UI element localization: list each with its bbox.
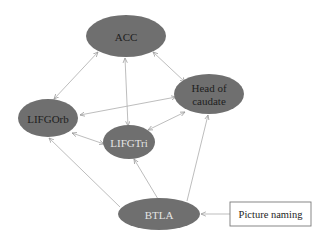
head-of-caudate-label-line2: caudate <box>192 95 226 107</box>
head-of-caudate-ellipse <box>174 74 244 114</box>
edge-acc-lifgtri <box>125 58 128 126</box>
lifgtri-label: LIFGTri <box>110 137 148 149</box>
node-lifgtri: LIFGTri <box>103 125 155 159</box>
edge-acc-lifgorb <box>54 52 98 99</box>
lifgorb-label: LIFGOrb <box>27 113 69 125</box>
acc-label: ACC <box>115 31 138 43</box>
edge-btla-lifgtri <box>134 159 158 199</box>
brain-network-diagram: ACC Head of caudate LIFGOrb LIFGTri BTLA… <box>0 0 327 242</box>
edge-acc-head-of-caudate <box>153 52 185 82</box>
edge-btla-head-of-caudate <box>187 115 208 201</box>
node-lifgorb: LIFGOrb <box>18 99 78 137</box>
node-picture-naming: Picture naming <box>230 202 311 226</box>
edge-head-of-caudate-lifgtri <box>148 112 185 130</box>
edge-lifgorb-head-of-caudate <box>80 97 176 115</box>
btla-label: BTLA <box>145 209 174 221</box>
head-of-caudate-label-line1: Head of <box>191 82 226 94</box>
node-head-of-caudate: Head of caudate <box>174 74 244 114</box>
picture-naming-label: Picture naming <box>239 209 304 220</box>
node-btla: BTLA <box>118 198 200 230</box>
edge-lifgorb-lifgtri <box>72 133 104 144</box>
node-acc: ACC <box>86 15 166 57</box>
